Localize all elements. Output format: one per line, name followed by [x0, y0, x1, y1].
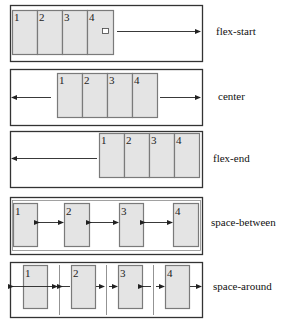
flex-item-number: 1	[25, 267, 31, 279]
flex-items: 1 2 3 4	[58, 74, 158, 118]
row-flex-start: 1 2 3 4 flex-start	[11, 6, 256, 62]
row-flex-end: 1 2 3 4 flex-end	[11, 132, 251, 188]
row-label: flex-end	[213, 152, 250, 164]
flex-item-number: 1	[14, 11, 20, 23]
flex-item-number: 2	[126, 134, 132, 146]
flex-items: 1 2 3 4	[13, 11, 114, 55]
justify-content-diagram: 1 2 3 4 flex-start 1 2 3 4 center	[0, 0, 281, 323]
flex-item-number: 2	[73, 267, 79, 279]
flex-item-number: 1	[101, 134, 107, 146]
flex-item-number: 2	[84, 74, 90, 86]
flex-item-number: 3	[120, 267, 126, 279]
row-label: space-between	[211, 216, 276, 228]
flex-item-number: 3	[121, 205, 127, 217]
flex-item-number: 2	[66, 205, 72, 217]
flex-item-number: 4	[175, 205, 181, 217]
row-space-between: 1 2 3 4 space-between	[11, 198, 277, 255]
flex-item-number: 4	[89, 11, 95, 23]
flex-item-number: 1	[59, 74, 65, 86]
flex-item-number: 3	[151, 134, 157, 146]
row-center: 1 2 3 4 center	[11, 70, 246, 126]
small-square-icon	[103, 29, 109, 34]
flex-item-number: 3	[64, 11, 70, 23]
flex-item-number: 2	[39, 11, 45, 23]
row-label: center	[218, 90, 245, 102]
flex-item-number: 4	[176, 134, 182, 146]
flex-item-number: 4	[134, 74, 140, 86]
flex-item-number: 4	[167, 267, 173, 279]
flex-item-number: 3	[109, 74, 115, 86]
row-label: space-around	[213, 280, 272, 292]
row-label: flex-start	[216, 25, 256, 37]
flex-item-number: 1	[15, 205, 21, 217]
flex-items: 1 2 3 4	[100, 134, 200, 178]
row-space-around: 1 2 3 4 space-around	[11, 263, 273, 318]
